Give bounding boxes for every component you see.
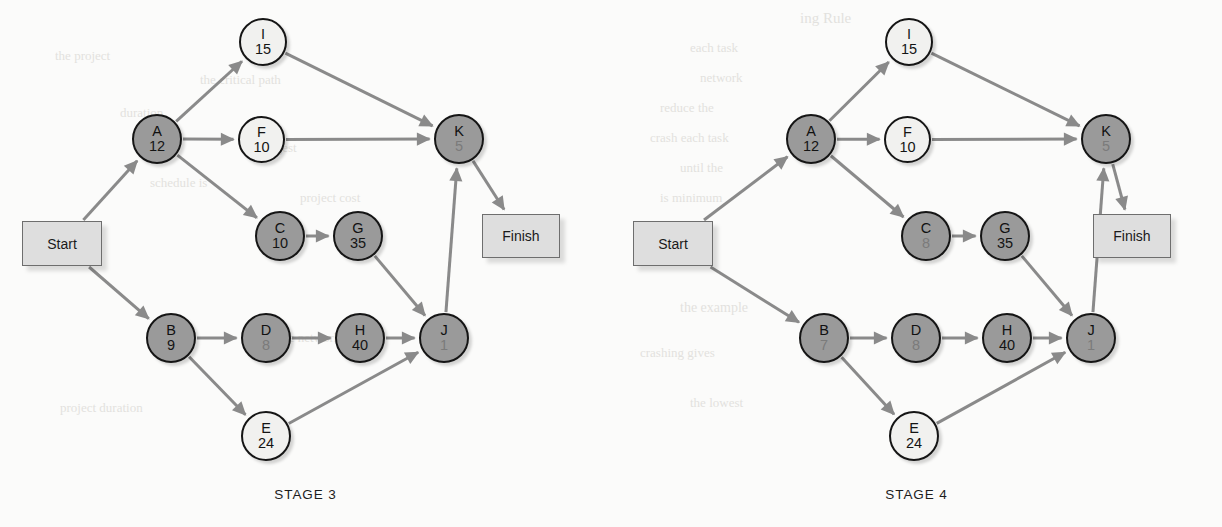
node-id-label: D xyxy=(911,323,921,338)
activity-node-g: G35 xyxy=(333,211,383,261)
stage-caption: STAGE 4 xyxy=(611,487,1222,502)
edge-E-to-J xyxy=(289,352,418,423)
activity-node-f: F10 xyxy=(238,116,285,163)
edge-G-to-J xyxy=(375,256,425,316)
node-id-label: F xyxy=(903,125,912,140)
node-id-label: I xyxy=(261,27,265,42)
node-id-label: D xyxy=(261,323,271,338)
node-id-label: H xyxy=(355,323,365,338)
node-duration-label: 10 xyxy=(253,140,269,155)
activity-node-i: I15 xyxy=(885,18,933,66)
edge-B-to-E xyxy=(842,357,894,414)
activity-node-h: H40 xyxy=(982,313,1032,363)
activity-node-j: J1 xyxy=(419,313,469,363)
node-duration-label: 24 xyxy=(258,436,274,451)
node-duration-label: 8 xyxy=(262,338,270,353)
stage-3: StartFinishI15A12F10K5C10G35B9D8H40J1E24… xyxy=(0,0,611,527)
edge-E-to-J xyxy=(937,352,1065,423)
edge-Start-to-B xyxy=(711,267,799,322)
node-id-label: B xyxy=(166,323,176,338)
edge-K-to-Finish xyxy=(1113,164,1125,209)
activity-node-f: F10 xyxy=(884,116,931,163)
activity-node-i: I15 xyxy=(239,18,287,66)
activity-node-d: D8 xyxy=(891,313,941,363)
node-id-label: J xyxy=(440,323,447,338)
start-box: Start xyxy=(22,221,102,266)
node-duration-label: 15 xyxy=(255,42,271,57)
activity-node-e: E24 xyxy=(889,411,939,461)
node-duration-label: 1 xyxy=(440,338,448,353)
edge-Start-to-A xyxy=(704,157,787,220)
stage-caption: STAGE 3 xyxy=(0,487,611,502)
node-duration-label: 8 xyxy=(922,236,930,251)
node-duration-label: 40 xyxy=(999,338,1015,353)
node-id-label: C xyxy=(921,221,931,236)
activity-node-c: C8 xyxy=(901,211,951,261)
edge-I-to-K xyxy=(931,53,1079,126)
node-id-label: C xyxy=(275,221,285,236)
node-duration-label: 12 xyxy=(803,139,819,154)
node-id-label: G xyxy=(352,221,363,236)
node-duration-label: 5 xyxy=(1102,139,1110,154)
edge-G-to-J xyxy=(1022,256,1072,316)
edge-A-to-I xyxy=(829,62,888,121)
node-duration-label: 7 xyxy=(820,338,828,353)
activity-node-d: D8 xyxy=(241,313,291,363)
node-duration-label: 1 xyxy=(1087,338,1095,353)
node-duration-label: 10 xyxy=(899,140,915,155)
node-id-label: A xyxy=(806,124,816,139)
node-id-label: K xyxy=(1101,124,1111,139)
figure-canvas: ing Rulethe projecteach taskthe critical… xyxy=(0,0,1222,527)
edge-K-to-Finish xyxy=(473,161,504,210)
finish-box: Finish xyxy=(1093,214,1171,258)
node-id-label: F xyxy=(257,125,266,140)
activity-node-e: E24 xyxy=(241,411,291,461)
activity-node-b: B7 xyxy=(799,313,849,363)
edge-J-to-K xyxy=(446,168,457,312)
node-duration-label: 40 xyxy=(352,338,368,353)
activity-node-g: G35 xyxy=(980,211,1030,261)
edge-Start-to-A xyxy=(83,161,137,220)
node-id-label: B xyxy=(819,323,829,338)
edge-I-to-K xyxy=(285,53,432,126)
node-id-label: K xyxy=(454,124,464,139)
edge-A-to-C xyxy=(177,155,256,218)
node-id-label: E xyxy=(261,421,271,436)
start-box: Start xyxy=(633,221,713,266)
finish-box: Finish xyxy=(482,214,560,258)
node-id-label: G xyxy=(999,221,1010,236)
activity-node-k: K5 xyxy=(1081,114,1131,164)
node-duration-label: 35 xyxy=(997,236,1013,251)
activity-node-k: K5 xyxy=(434,114,484,164)
node-duration-label: 12 xyxy=(149,139,165,154)
node-id-label: J xyxy=(1087,323,1094,338)
node-id-label: E xyxy=(909,421,919,436)
node-duration-label: 24 xyxy=(906,436,922,451)
node-id-label: I xyxy=(907,27,911,42)
stage-4: StartFinishI15A12F10K5C8G35B7D8H40J1E24S… xyxy=(611,0,1222,527)
node-id-label: H xyxy=(1002,323,1012,338)
activity-node-a: A12 xyxy=(786,114,836,164)
activity-node-j: J1 xyxy=(1066,313,1116,363)
edge-Start-to-B xyxy=(89,267,149,319)
edge-A-to-C xyxy=(831,156,904,217)
node-duration-label: 35 xyxy=(350,236,366,251)
node-duration-label: 15 xyxy=(901,42,917,57)
node-id-label: A xyxy=(152,124,162,139)
activity-node-a: A12 xyxy=(132,114,182,164)
edge-B-to-E xyxy=(189,357,245,415)
edge-A-to-I xyxy=(176,61,242,121)
node-duration-label: 10 xyxy=(272,236,288,251)
activity-node-b: B9 xyxy=(146,313,196,363)
node-duration-label: 8 xyxy=(912,338,920,353)
node-duration-label: 9 xyxy=(167,338,175,353)
node-duration-label: 5 xyxy=(455,139,463,154)
activity-node-h: H40 xyxy=(335,313,385,363)
activity-node-c: C10 xyxy=(255,211,305,261)
